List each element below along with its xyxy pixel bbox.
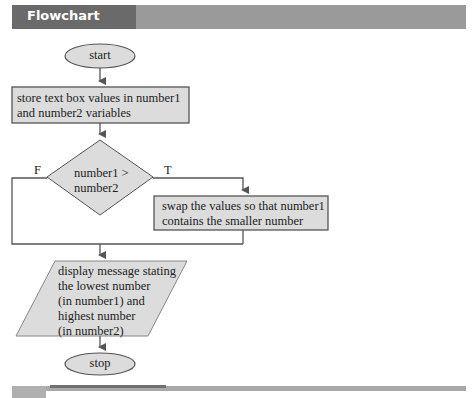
store-label: store text box values in number1 and num…: [17, 91, 192, 121]
swap-label: swap the values so that number1 contains…: [162, 199, 332, 229]
display-label-line: display message stating: [58, 264, 188, 279]
store-label-line: and number2 variables: [17, 106, 192, 121]
swap-label-line: swap the values so that number1: [162, 199, 332, 214]
decision-label: number1 > number2: [74, 166, 144, 196]
swap-label-line: contains the smaller number: [162, 214, 332, 229]
footer-accent-rule: [50, 385, 166, 388]
true-branch-line: [153, 178, 243, 190]
decision-label-line: number2: [74, 181, 144, 196]
true-branch-label: T: [164, 163, 172, 178]
display-label-line: highest number: [58, 309, 188, 324]
display-label: display message stating the lowest numbe…: [58, 264, 188, 339]
display-label-line: (in number2): [58, 324, 188, 339]
decision-label-line: number1 >: [74, 166, 144, 181]
footer-left-block: [12, 386, 46, 398]
store-label-line: store text box values in number1: [17, 91, 192, 106]
stop-label: stop: [65, 356, 135, 371]
footer-panel: [46, 391, 466, 398]
display-label-line: the lowest number: [58, 279, 188, 294]
start-label: start: [65, 48, 135, 63]
false-branch-label: F: [34, 163, 41, 178]
display-label-line: (in number1) and: [58, 294, 188, 309]
